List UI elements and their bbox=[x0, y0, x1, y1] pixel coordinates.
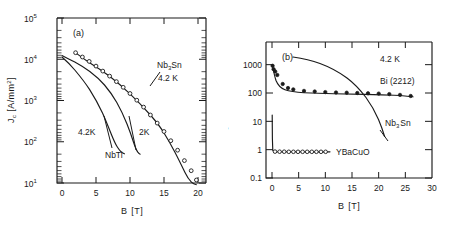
panel-b-x-tick-labels: 0 5 10 15 20 25 30 bbox=[270, 183, 437, 193]
panel-b-plot: 1000 100 10 1 0.1 0 5 10 15 20 25 30 B[T… bbox=[228, 0, 456, 227]
x-tick-b-6: 30 bbox=[427, 183, 437, 193]
label-nb3sn-b: Nb3Sn bbox=[385, 118, 411, 129]
x-tick-b-2: 10 bbox=[321, 183, 331, 193]
x-tick-a-4: 20 bbox=[193, 188, 203, 198]
x-tick-b-3: 15 bbox=[347, 183, 357, 193]
panel-a-y-tick-labels: 105 104 103 102 101 bbox=[24, 13, 37, 189]
y-tick-a-exp-4: 1 bbox=[33, 178, 37, 184]
x-tick-a-2: 10 bbox=[125, 188, 135, 198]
y-tick-a-2: 10 bbox=[24, 96, 34, 106]
svg-text:102: 102 bbox=[24, 136, 37, 147]
label-nb3sn-temp-a: 4.2 K bbox=[158, 73, 178, 83]
y-tick-a-exp-1: 4 bbox=[33, 54, 37, 60]
x-tick-a-1: 5 bbox=[94, 188, 99, 198]
y-tick-a-exp-3: 2 bbox=[33, 136, 37, 142]
panel-a-x-axis-title: B[T] bbox=[121, 206, 143, 216]
panel-b-y-tick-labels: 1000 100 10 1 0.1 bbox=[243, 60, 262, 183]
panel-a-axes bbox=[57, 18, 206, 183]
panel-a-tag: (a) bbox=[73, 28, 84, 38]
y-tick-a-3: 10 bbox=[24, 137, 34, 147]
panel-a-plot: 105 104 103 102 101 0 5 10 15 20 B[T] Jc… bbox=[0, 0, 228, 227]
y-tick-a-exp-0: 5 bbox=[33, 13, 37, 19]
y-tick-b-4: 0.1 bbox=[250, 173, 262, 183]
panel-b-x-axis-title: B[T] bbox=[338, 201, 360, 211]
x-tick-b-5: 25 bbox=[401, 183, 411, 193]
label-bi2212: Bi (2212) bbox=[380, 76, 415, 86]
label-nb3sn-a: Nb3Sn bbox=[157, 60, 182, 71]
panel-b-axes bbox=[266, 42, 432, 178]
y-tick-b-3: 1 bbox=[257, 145, 262, 155]
svg-text:103: 103 bbox=[24, 95, 37, 106]
x-tick-b-1: 5 bbox=[296, 183, 301, 193]
label-nbti-temp-2k: 2K bbox=[139, 127, 150, 137]
figure-container: 105 104 103 102 101 0 5 10 15 20 B[T] Jc… bbox=[0, 0, 456, 227]
panel-b-tag: (b) bbox=[282, 52, 293, 62]
label-nbti: NbTi bbox=[105, 150, 123, 160]
panel-a-x-tick-labels: 0 5 10 15 20 bbox=[60, 188, 203, 198]
x-tick-b-0: 0 bbox=[270, 183, 275, 193]
y-tick-a-4: 10 bbox=[24, 179, 34, 189]
y-tick-a-1: 10 bbox=[24, 55, 34, 65]
panel-a-y-axis-title: Jc[A/mm2] bbox=[6, 77, 17, 123]
curve-nbti-4p2k bbox=[62, 57, 124, 154]
y-tick-b-1: 100 bbox=[248, 88, 262, 98]
y-tick-b-2: 10 bbox=[253, 117, 263, 127]
x-tick-a-3: 15 bbox=[159, 188, 169, 198]
leader-nb3sn-b bbox=[380, 130, 388, 141]
label-temp-b: 4.2 K bbox=[380, 54, 400, 64]
label-ybacuo: YBaCuO bbox=[336, 147, 370, 157]
svg-text:104: 104 bbox=[24, 54, 37, 65]
label-nbti-temp-4p2k: 4.2K bbox=[78, 127, 96, 137]
x-tick-b-4: 20 bbox=[374, 183, 384, 193]
panel-b-y-axis-title: Jc[A/mm2] bbox=[228, 89, 229, 135]
panel-b: 1000 100 10 1 0.1 0 5 10 15 20 25 30 B[T… bbox=[228, 0, 456, 227]
curve-nb3sn-4p2k bbox=[76, 53, 197, 185]
svg-text:101: 101 bbox=[24, 178, 37, 189]
curve-ybacuo bbox=[272, 115, 330, 152]
panel-a: 105 104 103 102 101 0 5 10 15 20 B[T] Jc… bbox=[0, 0, 228, 227]
y-tick-a-0: 10 bbox=[24, 14, 34, 24]
y-tick-b-0: 1000 bbox=[243, 60, 262, 70]
y-tick-a-exp-2: 3 bbox=[33, 95, 37, 101]
x-tick-a-0: 0 bbox=[60, 188, 65, 198]
svg-text:105: 105 bbox=[24, 13, 37, 24]
curve-nb3sn-b bbox=[293, 57, 385, 137]
panel-a-y-major-ticks bbox=[57, 18, 206, 183]
